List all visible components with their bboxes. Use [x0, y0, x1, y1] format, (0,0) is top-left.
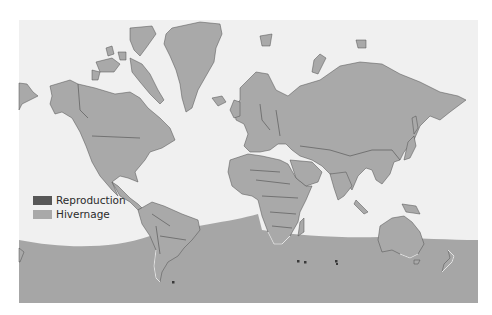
legend-item-reproduction: Reproduction	[33, 193, 126, 207]
legend-label-hivernage: Hivernage	[56, 208, 110, 220]
breeding-site-dot	[335, 260, 338, 263]
legend-item-hivernage: Hivernage	[33, 207, 126, 221]
world-map	[0, 0, 492, 315]
breeding-site-dot	[336, 263, 338, 265]
legend-label-reproduction: Reproduction	[56, 194, 126, 206]
legend-swatch-hivernage	[33, 210, 52, 219]
breeding-site-dot	[297, 260, 300, 263]
legend-swatch-reproduction	[33, 196, 52, 205]
map-legend: Reproduction Hivernage	[33, 193, 126, 221]
land-svalbard	[260, 34, 272, 46]
breeding-site-dot	[172, 281, 175, 284]
breeding-site-dot	[304, 261, 307, 264]
land-severnaya	[356, 40, 366, 48]
